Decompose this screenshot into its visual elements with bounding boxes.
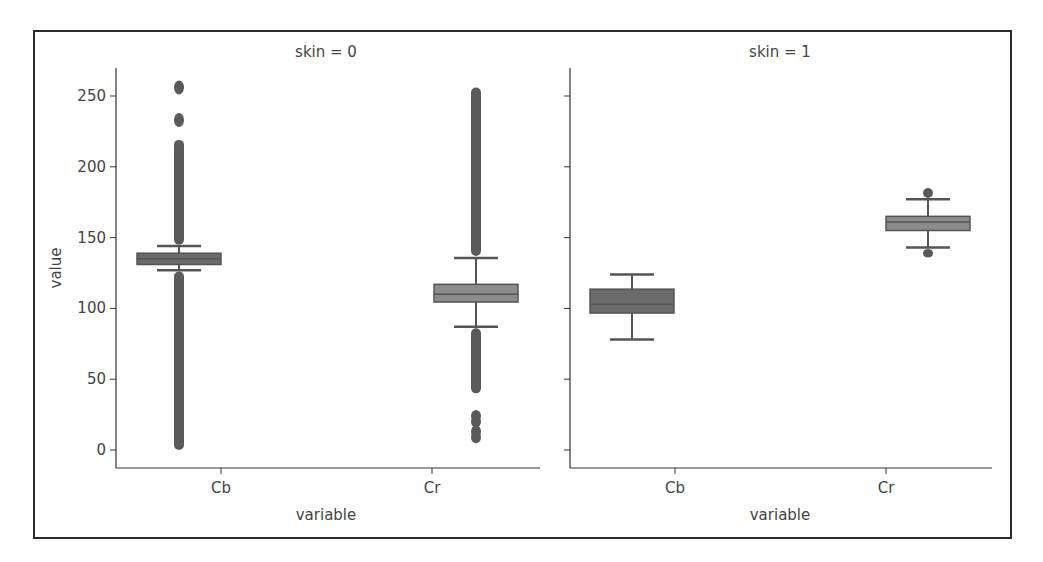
box-plots <box>137 81 970 450</box>
panel-title-skin0: skin = 0 <box>295 43 357 61</box>
ytick-label: 50 <box>87 370 106 388</box>
box-cb-skin1 <box>590 274 674 339</box>
ytick-label: 0 <box>96 441 106 459</box>
box-cb-skin0 <box>137 81 221 450</box>
ytick-label: 100 <box>77 299 106 317</box>
right-axes <box>570 68 992 468</box>
xtick-label-cr-right: Cr <box>878 479 895 497</box>
y-ticks-left: 050100150200250 <box>77 87 116 459</box>
x-axis-label-left: variable <box>296 506 357 524</box>
chart-svg: skin = 0 skin = 1 050100150200250 Cb Cr … <box>0 0 1043 562</box>
y-axis-label: value <box>47 248 65 289</box>
y-ticks-right <box>564 96 570 450</box>
box-cr-skin1 <box>886 188 970 257</box>
ytick-label: 250 <box>77 87 106 105</box>
ytick-label: 150 <box>77 229 106 247</box>
panel-title-skin1: skin = 1 <box>749 43 811 61</box>
x-axis-label-right: variable <box>750 506 811 524</box>
xtick-label-cb-left: Cb <box>211 479 231 497</box>
x-ticks <box>221 468 886 474</box>
xtick-label-cb-right: Cb <box>665 479 685 497</box>
xtick-label-cr-left: Cr <box>424 479 441 497</box>
ytick-label: 200 <box>77 158 106 176</box>
box-cr-skin0 <box>434 88 518 444</box>
